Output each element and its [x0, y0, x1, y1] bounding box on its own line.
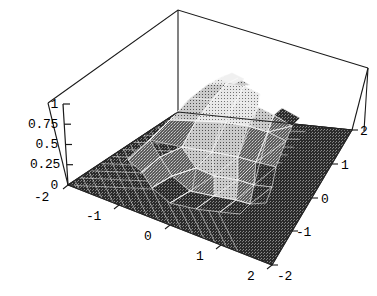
y-tick-label-neg1: -1: [296, 226, 311, 239]
z-tick-label-0-5: 0.5: [18, 138, 58, 151]
x-tick-label-2: 2: [247, 270, 255, 283]
surface-plot-figure: 1 0.75 0.5 0.25 0 -2 -1 0 1 2 2 1 0 -1 -…: [0, 0, 377, 296]
x-tick-label-neg1: -1: [86, 210, 101, 223]
z-tick-label-1: 1: [30, 98, 58, 111]
z-tick-label-0-75: 0.75: [8, 118, 58, 131]
y-tick-label-0: 0: [321, 193, 329, 206]
x-tick-label-1: 1: [196, 250, 204, 263]
x-tick-label-0: 0: [144, 230, 152, 243]
y-tick-label-neg2: -2: [277, 270, 292, 283]
z-tick-label-0-25: 0.25: [10, 158, 60, 171]
x-tick-label-neg2: -2: [34, 191, 49, 204]
y-tick-label-2: 2: [360, 125, 368, 138]
y-tick-label-1: 1: [341, 159, 349, 172]
